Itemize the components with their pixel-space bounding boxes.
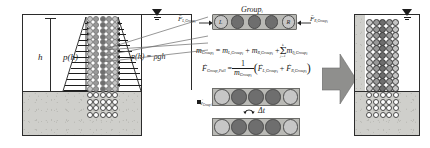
particle: [366, 99, 372, 105]
soil-left-wall-right-panel: [355, 15, 365, 91]
particle: [93, 22, 99, 28]
particle: [100, 99, 106, 105]
particle: [380, 92, 386, 98]
particle: [100, 112, 106, 118]
eq1-t2-sub: R,Group: [257, 50, 271, 55]
eq2-den-sub: Group: [240, 72, 251, 77]
group-box-particles: LR: [214, 15, 295, 29]
particle-interior: [265, 119, 281, 135]
eq2-a-sub-i: i: [277, 69, 278, 74]
eq2-fraction: 1mGroupi: [232, 60, 254, 78]
particle: [366, 92, 372, 98]
particle: [106, 92, 112, 98]
particle: [87, 63, 93, 69]
particle: [93, 28, 99, 34]
particle-column-right: [366, 19, 399, 92]
force-left-label: FL,Groupi: [178, 16, 196, 24]
particle: [87, 92, 93, 98]
particle: [93, 99, 99, 105]
particle: [93, 105, 99, 111]
particle: [87, 22, 93, 28]
sum-lower-limit: j=1: [279, 55, 286, 58]
force-right-label: FR,Groupi: [310, 16, 328, 24]
water-table-triangle-right: [402, 9, 412, 16]
particle: [87, 112, 93, 118]
particle: [386, 112, 392, 118]
particle: [392, 19, 399, 26]
group-box-label: Groupi: [241, 6, 263, 14]
mass-equation: mGroupi = mL,Groupi + mR,Groupi +kΣj=1mI…: [196, 44, 308, 58]
force-right-sub: R,Group: [314, 19, 326, 23]
group-velocity-tag: vGroupi: [200, 100, 212, 108]
eq1-equals: =: [216, 46, 221, 55]
particle: [373, 105, 379, 111]
force-right-symbol: F: [310, 16, 314, 23]
eq2-lhs-sub: Group,Pull: [207, 68, 226, 73]
group-velocity-sub-i: i: [211, 103, 212, 107]
particle-interior: [231, 119, 247, 135]
particle-right-edge: R: [282, 15, 296, 29]
force-right-sub-i: i: [327, 20, 328, 24]
particle: [112, 92, 118, 98]
force-left-sub: L,Group: [182, 19, 194, 23]
particle-right-edge: [283, 119, 299, 135]
eq1-lhs-sub-i: i: [212, 51, 213, 56]
eq1-t1-sub: L,Group: [228, 50, 242, 55]
particle: [373, 92, 379, 98]
eq2-close-paren: ): [307, 61, 311, 75]
frame-before-particles: [214, 89, 298, 105]
particle-interior: [265, 15, 279, 29]
right-panel: [354, 14, 420, 136]
particle: [366, 52, 373, 59]
eq1-t3-sub2: ,Group: [295, 50, 307, 55]
particle: [112, 112, 118, 118]
particle: [379, 52, 386, 59]
particle: [386, 99, 392, 105]
particle: [393, 99, 399, 105]
eq1-lhs-sub: Group: [202, 50, 213, 55]
particle: [93, 57, 99, 63]
velocity-equation: FGroup,Pull =1mGroupi(FL,Groupi + FR,Gro…: [202, 60, 311, 78]
particle: [93, 92, 99, 98]
eq2-plus: +: [280, 64, 285, 73]
particle: [100, 92, 106, 98]
particle: [379, 19, 386, 26]
particle: [392, 85, 399, 92]
particle: [87, 57, 93, 63]
water-table-bars-right: [403, 16, 412, 20]
particle: [100, 105, 106, 111]
particle: [393, 112, 399, 118]
particle: [373, 112, 379, 118]
particle: [380, 112, 386, 118]
timestep-label: Δt: [258, 107, 265, 115]
particle: [87, 105, 93, 111]
particle: [106, 112, 112, 118]
particle-interior: [248, 119, 264, 135]
transition-arrow: [322, 52, 356, 106]
particle-interior: [265, 89, 281, 105]
particle: [93, 63, 99, 69]
rotation-arrow-icon: [243, 108, 255, 117]
particle-column-left-soil: [87, 92, 118, 118]
particle: [386, 92, 392, 98]
eq1-t2-sub-i: i: [272, 51, 273, 56]
group-velocity-marker: [197, 100, 201, 104]
force-left-symbol: F: [178, 16, 182, 23]
figure-root: h p(h): [0, 0, 430, 148]
particle: [366, 105, 372, 111]
particle: [366, 112, 372, 118]
particle: [379, 85, 386, 92]
particle: [112, 105, 118, 111]
particle: [366, 19, 373, 26]
particle: [93, 112, 99, 118]
particle: [106, 99, 112, 105]
particle: [392, 52, 399, 59]
particle: [366, 85, 373, 92]
particle: [386, 105, 392, 111]
eq2-denominator: mGroupi: [232, 69, 254, 78]
particle-left-edge: [214, 119, 230, 135]
particle: [87, 28, 93, 34]
particle-right-edge: [283, 89, 299, 105]
eq1-t1-sub-i: i: [242, 51, 243, 56]
eq2-lhs-v: F: [202, 65, 207, 73]
